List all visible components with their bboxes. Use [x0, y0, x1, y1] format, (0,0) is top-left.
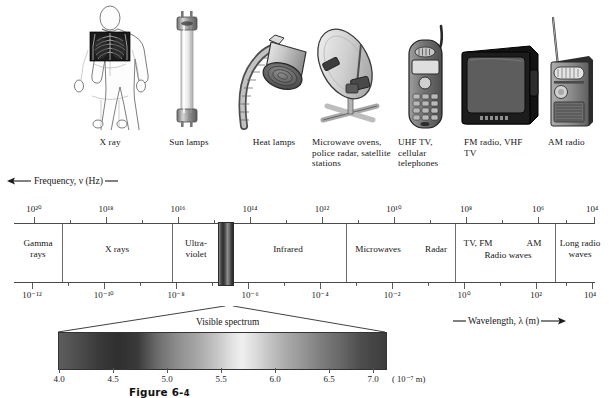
- visible-label-5-5: 5.5: [215, 374, 226, 384]
- band-label-am: AM: [527, 238, 542, 249]
- band-label-uv-line1: Ultra-: [185, 238, 207, 248]
- wave-tick-minor-1: [500, 283, 501, 286]
- figure-number-suffix: 4: [184, 388, 190, 398]
- band-label-gamma-line1: Gamma: [23, 238, 52, 248]
- source-illustrations-row: [0, 0, 609, 132]
- freq-tick-12: [322, 217, 323, 223]
- wave-tick-m8: [176, 283, 177, 289]
- band-label-infrared: Infrared: [273, 244, 303, 255]
- band-label-long-radio-waves: Long radio waves: [560, 238, 601, 260]
- wave-tick-0: [464, 283, 465, 289]
- visible-tick-6-0: [275, 368, 276, 373]
- wave-label-m2: 10⁻²: [384, 290, 401, 300]
- band-label-uv-line2: violet: [186, 249, 207, 259]
- band-label-microwaves: Microwaves: [355, 244, 400, 255]
- wave-label-0: 10⁰: [458, 290, 471, 300]
- freq-label-14: 10¹⁴: [243, 204, 258, 214]
- source-caption-sun-lamps: Sun lamps: [148, 137, 230, 148]
- wave-label-m4: 10⁻⁴: [311, 290, 328, 300]
- freq-label-8: 10⁸: [460, 204, 472, 214]
- figure-number: Figure 6-4: [129, 386, 190, 398]
- freq-tick-18: [106, 217, 107, 223]
- rule-dash-icon: [105, 176, 119, 186]
- freq-label-18: 10¹⁸: [99, 204, 114, 214]
- band-label-ultraviolet: Ultra- violet: [185, 238, 207, 260]
- band-label-longradio-line1: Long radio: [560, 238, 601, 248]
- freq-tick-14: [250, 217, 251, 223]
- wave-tick-m2: [392, 283, 393, 289]
- freq-label-16: 10¹⁶: [171, 204, 186, 214]
- visible-band-marker: [218, 222, 234, 286]
- visible-label-6-5: 6.5: [323, 374, 334, 384]
- visible-tick-4-5: [113, 368, 114, 373]
- wavelength-axis-line: [14, 282, 595, 283]
- portable-radio-icon: [545, 12, 601, 132]
- source-captions-row: X ray Sun lamps Heat lamps Microwave ove…: [0, 132, 609, 170]
- wave-tick-2: [536, 283, 537, 289]
- fluorescent-tube-icon: [172, 9, 202, 129]
- source-caption-heat-lamps: Heat lamps: [232, 137, 316, 148]
- freq-tick-minor-11: [358, 220, 359, 223]
- freq-tick-minor-19: [70, 220, 71, 223]
- freq-tick-minor-5: [566, 220, 567, 223]
- frequency-axis-label: Frequency, ν (Hz): [6, 175, 119, 186]
- wave-tick-minor-3: [566, 283, 567, 286]
- visible-tick-5-0: [167, 368, 168, 373]
- visible-spectrum-unit-label: ( 10⁻⁷ m): [392, 374, 425, 384]
- wave-tick-minor-m7: [212, 283, 213, 286]
- human-body-xray-icon: [58, 4, 162, 130]
- freq-label-10: 10¹⁰: [386, 204, 402, 214]
- band-divider-gamma-xrays: [62, 224, 63, 282]
- wave-tick-4: [592, 283, 593, 289]
- wave-tick-m4: [320, 283, 321, 289]
- freq-label-12: 10¹²: [315, 204, 329, 214]
- wave-tick-m12: [32, 283, 33, 289]
- freq-tick-minor-15: [214, 220, 215, 223]
- visible-tick-4-0: [59, 368, 60, 373]
- visible-label-6-0: 6.0: [269, 374, 280, 384]
- wave-label-4: 10⁴: [584, 290, 596, 300]
- visible-tick-5-5: [221, 368, 222, 373]
- frequency-axis-line: [14, 223, 595, 224]
- visible-spectrum-bar: [58, 332, 387, 370]
- freq-tick-minor-9: [430, 220, 431, 223]
- frequency-axis-label-text: Frequency, ν (Hz): [32, 175, 105, 186]
- wave-label-m12: 10⁻¹²: [22, 290, 41, 300]
- band-label-x-rays: X rays: [105, 244, 129, 255]
- figure-number-prefix: Figure 6-: [129, 386, 184, 398]
- satellite-dish-icon: [307, 16, 395, 132]
- band-divider-am-longradio: [555, 224, 556, 282]
- source-caption-x-ray: X ray: [70, 137, 150, 148]
- freq-tick-10: [394, 217, 395, 223]
- television-icon: [458, 40, 542, 132]
- wave-tick-minor-m11: [68, 283, 69, 286]
- wave-tick-minor-m5: [284, 283, 285, 286]
- visible-spectrum-title: Visible spectrum: [196, 317, 259, 327]
- visible-tick-7-0: [373, 368, 374, 373]
- band-label-radar: Radar: [425, 244, 447, 255]
- wave-tick-m10: [104, 283, 105, 289]
- source-caption-microwave: Microwave ovens, police radar, satellite…: [312, 137, 396, 169]
- visible-label-4-0: 4.0: [53, 374, 64, 384]
- freq-tick-minor-17: [142, 220, 143, 223]
- band-divider-infrared-microwaves: [346, 224, 347, 282]
- visible-tick-6-5: [329, 368, 330, 373]
- freq-tick-6: [538, 217, 539, 223]
- band-label-radio-waves: Radio waves: [484, 250, 531, 261]
- source-caption-am-radio: AM radio: [548, 137, 608, 148]
- visible-label-7-0: 7.0: [367, 374, 378, 384]
- freq-label-6: 10⁶: [532, 204, 544, 214]
- freq-label-4: 10⁴: [586, 204, 598, 214]
- visible-spectrum-inset: Visible spectrum 4.0 4.5 5.0 5.5 6.0 6.5…: [0, 306, 609, 397]
- band-divider-xrays-uv: [172, 224, 173, 282]
- wave-label-m10: 10⁻¹⁰: [94, 290, 115, 300]
- band-label-gamma-line2: rays: [30, 249, 45, 259]
- source-caption-uhf-tv: UHF TV, cellular telephones: [398, 137, 458, 169]
- visible-label-5-0: 5.0: [161, 374, 172, 384]
- freq-tick-minor-13: [286, 220, 287, 223]
- spectrum-chart: 10²⁰ 10¹⁸ 10¹⁶ 10¹⁴ 10¹² 10¹⁰ 10⁸ 10⁶ 10…: [0, 200, 609, 305]
- freq-tick-20: [34, 217, 35, 223]
- wave-tick-minor-m9: [140, 283, 141, 286]
- wave-label-m6: 10⁻⁶: [241, 290, 258, 300]
